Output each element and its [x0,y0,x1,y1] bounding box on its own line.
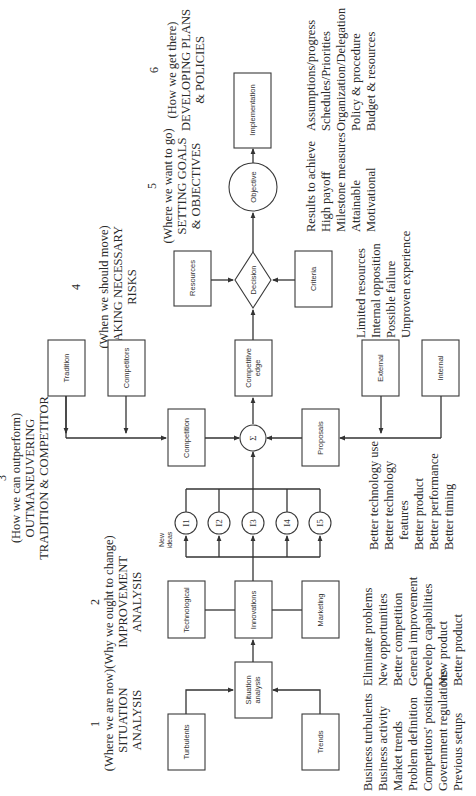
stage-4-question: (When we should move) [97,225,111,348]
new-ideas-line-2: ideas [166,531,173,548]
list-item: Previous setups [451,713,465,791]
stage-5-title-line-2: & OBJECTIVES [189,143,203,230]
stage-3-title-line-1: OUTMANEUVERING [23,419,37,538]
stage-2-question: (Why we ought to change) [102,535,116,668]
stage-2-title-line-1: IMPROVEMENT [116,556,130,648]
list-item: Results to achieve [304,141,318,232]
stage-4-number: 4 [69,284,83,290]
stage-5-title-line-1: SETTING GOALS [175,138,189,235]
node-innovations: Innovations [235,581,272,638]
list-item: New opportunities [376,593,390,686]
list-item: Better competition [391,592,405,686]
list-item: Business activity [376,705,390,791]
node-trends: Trends [302,714,339,770]
idea-2-label: I2 [214,519,224,527]
stage-2-title-line-2: ANALYSIS [130,572,144,633]
stage-1-heading: 1 (Where we are now) SITUATION ANALYSIS [88,669,144,771]
list-item: Problem definition [406,696,420,791]
list-item: Better product [412,478,426,550]
implementation-label: Implementation [248,84,257,135]
stage-4-title-line-2: RISKS [125,269,139,304]
list-item: Internal opposition [369,242,383,338]
stage-6-title-line-1: DEVELOPING PLANS [179,9,193,131]
objective-label: Objective [249,171,258,202]
list-item: Possible failure [384,260,398,338]
stage-4-heading: 4 (When we should move) TAKING NECESSARY… [69,225,139,348]
list-item: Policy & procedure [349,33,363,131]
marketing-label: Marketing [316,594,325,627]
tradition-label: Tradition [62,354,71,383]
node-technological: Technological [168,581,205,638]
list-item: Assumptions/progress [304,20,318,131]
list-item: Eliminate problems [361,588,375,686]
list-item: Milestone measures [334,132,348,232]
stage-3-heading: 3 (How we can outperform) OUTMANEUVERING… [0,396,51,560]
stage-1-title-line-2: ANALYSIS [130,690,144,751]
node-competition: Competition [168,409,205,466]
list-item: Unproven experience [399,230,413,338]
stage-6-number: 6 [147,67,161,73]
stage-5-heading: 5 (Where we want to go) SETTING GOALS & … [145,128,203,243]
sigma-label: Σ [248,435,258,440]
stage-3-number: 3 [0,475,9,481]
node-situation-analysis: Situation analysis [235,662,272,718]
list-improvement: Eliminate problems New opportunities Bet… [361,576,465,686]
list-item: features [397,500,411,540]
new-ideas-label: New ideas [158,531,173,548]
list-item: Market trends [391,721,405,791]
criteria-label: Criteria [309,266,318,291]
list-item: General improvement [406,576,420,686]
node-resources: Resources [174,251,211,306]
stage-1-question: (Where we are now) [102,669,116,771]
node-proposals: Proposals [302,409,339,466]
stage-5-question: (Where we want to go) [161,128,175,243]
stage-6-heading: 6 (How we get there) DEVELOPING PLANS & … [147,9,207,131]
competitors-label: Competitors [122,348,131,389]
stage-5-number: 5 [145,183,159,189]
external-label: External [376,354,385,382]
list-item: Better timing [442,483,456,550]
trends-label: Trends [316,730,325,753]
node-idea-5: I5 [309,512,331,534]
node-idea-1: I1 [175,512,197,534]
list-item: Business turbulents [361,693,375,791]
node-sigma: Σ [240,425,266,451]
node-idea-4: I4 [276,512,298,534]
list-item: Competitors' position [421,683,435,791]
node-criteria: Criteria [295,251,332,307]
internal-label: Internal [436,355,445,380]
stage-2-heading: 2 (Why we ought to change) IMPROVEMENT A… [88,535,144,668]
competitive-edge-label-1: Competitive [244,348,253,388]
resources-label: Resources [188,260,197,296]
list-goals: Results to achieve High payoff Milestone… [304,132,378,232]
proposals-label: Proposals [316,421,325,455]
list-item: Limited resources [354,248,368,338]
list-item: Better performance [427,453,441,550]
idea-1-label: I1 [181,519,191,527]
list-item: Develop capabilities [421,583,435,686]
idea-4-label: I4 [282,519,292,527]
situation-analysis-label-1: Situation [244,675,253,704]
list-item: Schedules/Priorities [319,31,333,131]
new-ideas-line-1: New [158,532,165,547]
list-risks: Limited resources Internal opposition Po… [354,230,413,338]
idea-5-label: I5 [315,519,325,527]
stage-6-question: (How we get there) [165,22,179,119]
node-competitors: Competitors [108,340,145,396]
stage-1-title-line-1: SITUATION [116,687,130,752]
stage-3-question: (How we can outperform) [9,413,23,543]
list-item: Organization/Delegation [334,7,348,131]
node-competitive-edge: Competitive edge [235,340,272,396]
list-item: Motivational [364,167,378,232]
list-item: Government regulations [436,670,450,791]
node-marketing: Marketing [302,581,339,638]
competitive-edge-label-2: edge [253,360,262,377]
list-item: Budget & resources [364,32,378,131]
stage-3-title-line-2: TRADITION & COMPETITOR [37,396,51,560]
stage-6-title-line-2: & POLICIES [193,36,207,104]
technological-label: Technological [182,587,191,633]
list-item: Better product [451,614,465,686]
competition-label: Competition [182,418,191,458]
node-turbulents: Turbulents [168,714,205,770]
node-external: External [362,340,399,396]
